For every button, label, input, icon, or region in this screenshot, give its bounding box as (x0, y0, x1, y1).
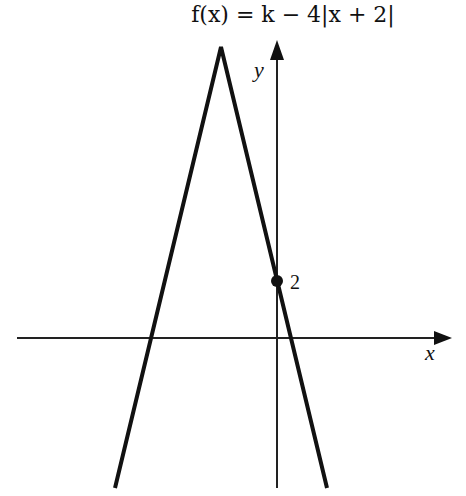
function-curve (115, 47, 327, 488)
x-axis-arrow-icon (434, 331, 452, 345)
y-axis-label: y (252, 57, 264, 82)
graph: 2 y x (0, 0, 466, 496)
y-intercept-point (271, 275, 283, 287)
y-axis-arrow-icon (270, 40, 284, 60)
x-axis-label: x (424, 340, 435, 365)
point-label: 2 (290, 271, 300, 293)
